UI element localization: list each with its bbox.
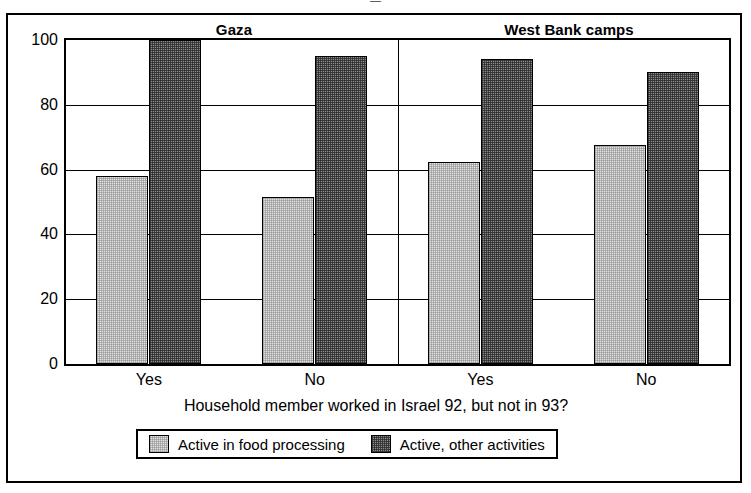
panel-title-west-bank-camps: West Bank camps	[404, 21, 734, 38]
bar-other-activities-1	[315, 56, 367, 364]
x-axis-title: Household member worked in Israel 92, bu…	[8, 397, 744, 415]
plot-inner	[66, 40, 729, 364]
bar-food-processing-0	[96, 176, 148, 364]
plot-area	[64, 38, 731, 366]
legend-entry-0[interactable]: Active in food processing	[149, 435, 345, 453]
legend-label-1: Active, other activities	[400, 436, 545, 453]
legend-entry-1[interactable]: Active, other activities	[371, 435, 545, 453]
bar-other-activities-2	[481, 59, 533, 364]
bar-other-activities-3	[647, 72, 699, 364]
y-tick-label-60: 60	[16, 162, 58, 178]
y-tick-label-80: 80	[16, 97, 58, 113]
panel-divider-line	[398, 40, 399, 364]
legend-label-0: Active in food processing	[178, 436, 345, 453]
legend-swatch-dark	[371, 435, 391, 453]
chart-legend: Active in food processingActive, other a…	[136, 429, 558, 459]
y-tick-label-40: 40	[16, 226, 58, 242]
chart-figure-frame: Gaza West Bank camps 100806040200 YesNoY…	[6, 13, 742, 483]
x-tick-label-1: No	[304, 371, 324, 389]
y-axis-tick-labels: 100806040200	[8, 38, 58, 366]
x-tick-label-3: No	[636, 371, 656, 389]
bar-food-processing-1	[262, 197, 314, 364]
legend-swatch-light	[149, 435, 169, 453]
bar-food-processing-2	[428, 162, 480, 365]
y-tick-label-100: 100	[16, 32, 58, 48]
clipped-caption-sliver: —	[0, 0, 751, 7]
bar-other-activities-0	[149, 40, 201, 364]
y-tick-label-0: 0	[16, 356, 58, 372]
y-tick-label-20: 20	[16, 291, 58, 307]
panel-title-gaza: Gaza	[64, 21, 404, 38]
x-tick-label-0: Yes	[136, 371, 162, 389]
x-tick-label-2: Yes	[467, 371, 493, 389]
bar-food-processing-3	[594, 145, 646, 364]
clipped-caption-text: —	[370, 0, 381, 6]
x-axis-tick-labels: YesNoYesNo	[64, 371, 731, 393]
